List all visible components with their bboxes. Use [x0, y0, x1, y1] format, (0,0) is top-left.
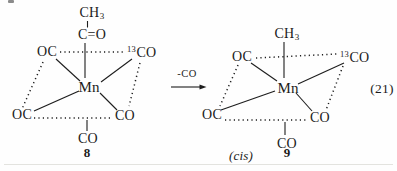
ligand-13co-upper-right-9: 13CO	[340, 50, 369, 65]
bond-mn-oc-upper-left-8	[56, 59, 80, 81]
bond-mn-oc-lower-left-9	[221, 91, 275, 110]
metal-center-9: Mn	[277, 81, 298, 96]
bond-mn-co-lower-right-9	[296, 93, 312, 111]
ligand-oc-upper-left-9: OC	[232, 50, 252, 64]
ligand-oc-lower-left-9: OC	[202, 108, 222, 122]
methyl-subscript-8: 3	[100, 11, 105, 21]
arrow-label-minus-co: -CO	[177, 69, 196, 80]
ligand-oc-upper-left-8: OC	[37, 45, 57, 59]
ligand-13co-upper-right-8: 13CO	[127, 45, 156, 60]
dotted-edge-right-8	[129, 63, 140, 106]
methyl-subscript-9: 3	[295, 32, 300, 42]
bond-mn-oc-upper-left-9	[251, 63, 277, 81]
reaction-scheme-figure: CH3 C=O OC 13CO Mn OC CO CO 8 -CO CH3 OC…	[0, 0, 397, 171]
methyl-base-8: CH	[79, 5, 99, 20]
ligand-oc-lower-left-8: OC	[12, 108, 32, 122]
carbon13-superscript-8: 13	[127, 44, 136, 54]
bond-lines-layer	[0, 0, 397, 171]
ligand-co-lower-right-8: CO	[115, 109, 135, 123]
isomer-label-cis-9: (cis)	[229, 149, 253, 162]
methyl-base-9: CH	[274, 26, 294, 41]
acyl-group-label-8: C=O	[78, 28, 106, 42]
compound-number-8: 8	[84, 146, 91, 159]
metal-center-8: Mn	[78, 80, 99, 95]
dotted-edge-left-9	[220, 65, 238, 106]
methyl-group-label-8: CH3	[79, 6, 104, 21]
carbon13-superscript-9: 13	[340, 49, 349, 59]
dotted-edge-right-9	[326, 66, 343, 110]
equation-number: (21)	[370, 82, 393, 96]
bond-mn-13co-upper-right-8	[101, 59, 132, 82]
compound-number-9: 9	[284, 146, 291, 159]
bond-mn-13co-upper-right-9	[298, 63, 344, 84]
ligand-13co-text-8: CO	[136, 45, 156, 60]
page-edge-line	[4, 164, 393, 165]
ligand-co-lower-right-9: CO	[310, 111, 330, 125]
reaction-arrow-head	[200, 84, 207, 89]
bond-mn-oc-lower-left-8	[34, 91, 79, 111]
methyl-group-label-9: CH3	[274, 27, 299, 42]
dotted-edge-left-8	[22, 62, 43, 109]
dotted-edge-top-9	[256, 54, 337, 58]
ligand-13co-text-9: CO	[349, 50, 369, 65]
